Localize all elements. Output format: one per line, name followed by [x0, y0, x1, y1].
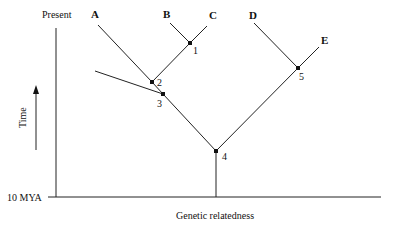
branch-4-5 — [216, 68, 298, 151]
node-1-marker — [188, 41, 192, 45]
taxon-D-label: D — [249, 9, 257, 21]
node-3-label: 3 — [157, 98, 162, 109]
branch-5-D — [254, 23, 298, 68]
ten-mya-label: 10 MYA — [7, 192, 43, 203]
node-2-label: 2 — [157, 77, 162, 88]
branch-5-E — [298, 47, 319, 68]
node-5-label: 5 — [299, 71, 304, 82]
node-2-marker — [150, 80, 154, 84]
genetic-relatedness-label: Genetic relatedness — [176, 210, 254, 221]
node-5-marker — [296, 66, 300, 70]
node-3-marker — [161, 92, 165, 96]
phylogenetic-tree-diagram: 1 2 3 4 5 A B C D E Present 10 MYA Genet… — [0, 0, 395, 229]
node-4-marker — [214, 149, 218, 153]
node-4-label: 4 — [222, 151, 227, 162]
taxon-C-label: C — [209, 9, 217, 21]
branch-2-A — [98, 25, 152, 82]
node-1-label: 1 — [193, 45, 198, 56]
branch-4-3 — [163, 94, 216, 151]
present-label: Present — [42, 9, 72, 20]
taxon-B-label: B — [163, 8, 171, 20]
arrow-up-icon — [33, 85, 39, 94]
time-label: Time — [17, 107, 28, 128]
branch-1-C — [190, 26, 207, 43]
taxon-E-label: E — [321, 34, 328, 46]
branch-1-B — [170, 23, 190, 43]
taxon-A-label: A — [91, 8, 99, 20]
